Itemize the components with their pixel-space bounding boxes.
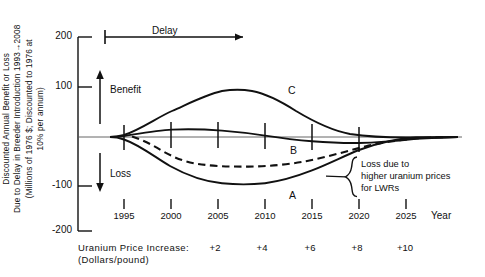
y-tick-label-200: 200	[38, 30, 72, 41]
y-tick-label-100: 100	[38, 80, 72, 91]
x-tick-label-2015: 2015	[292, 210, 332, 221]
lwr-note-line-1: Loss due to	[361, 158, 409, 170]
price-tick-label-p4: +4	[245, 242, 279, 253]
price-tick-label-p2: +2	[198, 242, 232, 253]
y-tick-label-m200: -200	[38, 224, 72, 235]
delay-arrow-head	[235, 34, 243, 41]
benefit-arrow-head	[96, 70, 104, 79]
plot-canvas	[0, 0, 485, 277]
price-axis-title-line-1: Uranium Price Increase:	[78, 242, 189, 253]
series-label-b: B	[290, 144, 297, 156]
x-tick-label-1995: 1995	[104, 210, 144, 221]
price-axis-title-line-2: (Dollars/pound)	[78, 254, 149, 265]
note-brace	[346, 157, 358, 197]
y-tick-label-m100: -100	[38, 179, 72, 190]
series-label-c: C	[288, 84, 296, 96]
series-label-a: A	[289, 189, 296, 201]
delay-label: Delay	[152, 25, 178, 36]
x-tick-label-2000: 2000	[151, 210, 191, 221]
price-tick-label-p10: +10	[388, 242, 422, 253]
lwr-note-line-2: higher uranium prices	[361, 170, 450, 182]
x-tick-label-2020: 2020	[339, 210, 379, 221]
loss-arrow-head	[96, 183, 104, 192]
x-axis-unit-label: Year	[431, 210, 451, 221]
x-tick-label-2010: 2010	[245, 210, 285, 221]
chart-figure: Discounted Annual Benefit or Loss Due to…	[0, 0, 485, 277]
benefit-label: Benefit	[110, 84, 141, 95]
lwr-note-line-3: for LWRs	[361, 182, 399, 194]
loss-label: Loss	[110, 168, 131, 179]
note-leader	[326, 176, 346, 177]
price-tick-label-p6: +6	[293, 242, 327, 253]
series-line-b	[110, 129, 458, 143]
x-tick-label-2025: 2025	[386, 210, 426, 221]
price-tick-label-p8: +8	[340, 242, 374, 253]
x-tick-label-2005: 2005	[198, 210, 238, 221]
